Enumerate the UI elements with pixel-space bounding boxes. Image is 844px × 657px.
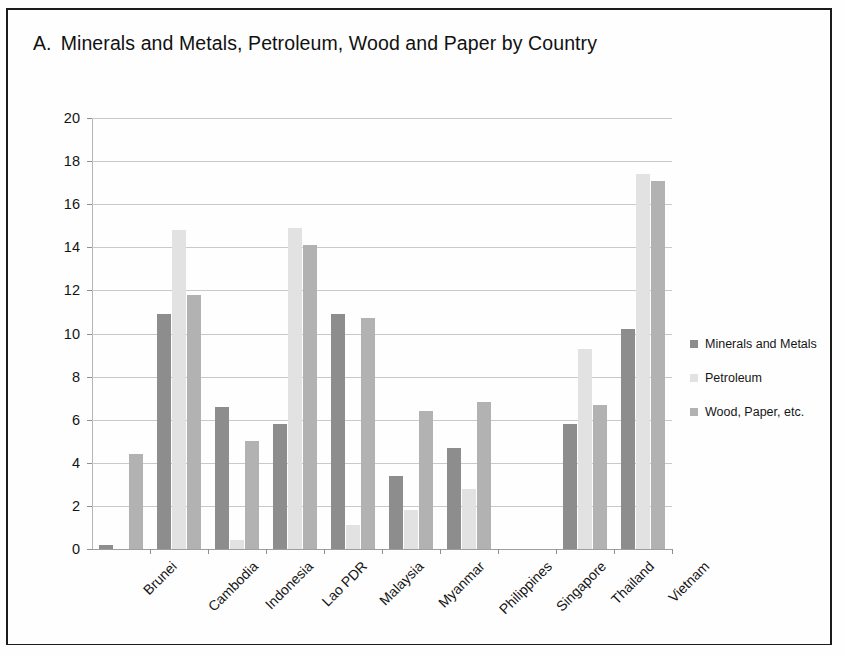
bar-group [563, 118, 607, 549]
bar-group [331, 118, 375, 549]
x-tick-mark [614, 549, 615, 554]
x-axis-label-indonesia: Indonesia [262, 558, 316, 612]
x-tick-mark [382, 549, 383, 554]
x-axis-label-brunei: Brunei [140, 558, 180, 598]
bar[interactable] [273, 424, 287, 549]
legend-item[interactable]: Wood, Paper, etc. [690, 404, 840, 419]
bar[interactable] [419, 411, 433, 549]
y-tick-label-8: 8 [40, 369, 80, 385]
bar[interactable] [331, 314, 345, 549]
bar[interactable] [245, 441, 259, 549]
y-tick-mark-20 [87, 118, 92, 119]
bar[interactable] [230, 540, 244, 549]
y-tick-mark-2 [87, 506, 92, 507]
y-tick-label-2: 2 [40, 498, 80, 514]
legend-label: Minerals and Metals [705, 337, 817, 351]
bar[interactable] [361, 318, 375, 549]
y-tick-label-20: 20 [40, 110, 80, 126]
x-axis-label-singapore: Singapore [553, 558, 609, 614]
x-axis-label-thailand: Thailand [608, 558, 657, 607]
bar[interactable] [187, 295, 201, 549]
x-tick-mark [266, 549, 267, 554]
x-axis-label-cambodia: Cambodia [205, 558, 261, 614]
bar-group [273, 118, 317, 549]
chart-legend: Minerals and MetalsPetroleumWood, Paper,… [690, 336, 840, 438]
y-tick-mark-10 [87, 334, 92, 335]
y-tick-mark-0 [87, 549, 92, 550]
legend-swatch-icon [690, 340, 698, 348]
bar-group [447, 118, 491, 549]
x-tick-mark [672, 549, 673, 554]
y-tick-mark-18 [87, 161, 92, 162]
y-tick-mark-12 [87, 290, 92, 291]
bar[interactable] [593, 405, 607, 549]
y-tick-mark-6 [87, 420, 92, 421]
x-tick-mark [440, 549, 441, 554]
bar[interactable] [447, 448, 461, 549]
bar-group [621, 118, 665, 549]
bar[interactable] [215, 407, 229, 549]
bar[interactable] [99, 545, 113, 549]
bar[interactable] [129, 454, 143, 549]
bar-group [99, 118, 143, 549]
figure-page: A.Minerals and Metals, Petroleum, Wood a… [0, 0, 844, 657]
bar-group [157, 118, 201, 549]
bar[interactable] [389, 476, 403, 549]
bar[interactable] [462, 489, 476, 549]
bar[interactable] [303, 245, 317, 549]
legend-label: Wood, Paper, etc. [705, 405, 804, 419]
y-tick-mark-4 [87, 463, 92, 464]
x-axis-label-myanmar: Myanmar [435, 558, 488, 611]
y-tick-mark-8 [87, 377, 92, 378]
legend-label: Petroleum [705, 371, 762, 385]
bar-group [505, 118, 549, 549]
x-tick-mark [324, 549, 325, 554]
y-tick-label-12: 12 [40, 282, 80, 298]
bar[interactable] [346, 525, 360, 549]
bar[interactable] [563, 424, 577, 549]
bar[interactable] [157, 314, 171, 549]
x-tick-mark [208, 549, 209, 554]
bar[interactable] [651, 181, 665, 550]
y-tick-label-14: 14 [40, 239, 80, 255]
plot-area [92, 118, 672, 549]
legend-item[interactable]: Minerals and Metals [690, 336, 840, 351]
x-axis-label-lao-pdr: Lao PDR [319, 558, 370, 609]
x-axis-label-vietnam: Vietnam [665, 558, 712, 605]
x-axis-label-philippines: Philippines [496, 558, 555, 617]
y-tick-mark-14 [87, 247, 92, 248]
x-axis-label-malaysia: Malaysia [376, 558, 426, 608]
legend-item[interactable]: Petroleum [690, 370, 840, 385]
bar[interactable] [636, 174, 650, 549]
bar[interactable] [288, 228, 302, 549]
bar[interactable] [578, 349, 592, 549]
y-tick-label-6: 6 [40, 412, 80, 428]
x-tick-mark [556, 549, 557, 554]
bar[interactable] [172, 230, 186, 549]
y-tick-mark-16 [87, 204, 92, 205]
bar[interactable] [621, 329, 635, 549]
y-tick-label-0: 0 [40, 541, 80, 557]
y-tick-label-10: 10 [40, 326, 80, 342]
legend-swatch-icon [690, 374, 698, 382]
bar[interactable] [404, 510, 418, 549]
y-tick-label-18: 18 [40, 153, 80, 169]
x-tick-mark [498, 549, 499, 554]
x-tick-mark [150, 549, 151, 554]
y-tick-label-4: 4 [40, 455, 80, 471]
bar-group [389, 118, 433, 549]
y-tick-label-16: 16 [40, 196, 80, 212]
bar[interactable] [477, 402, 491, 549]
bar-chart: Minerals and MetalsPetroleumWood, Paper,… [0, 0, 844, 657]
legend-swatch-icon [690, 408, 698, 416]
bar-group [215, 118, 259, 549]
